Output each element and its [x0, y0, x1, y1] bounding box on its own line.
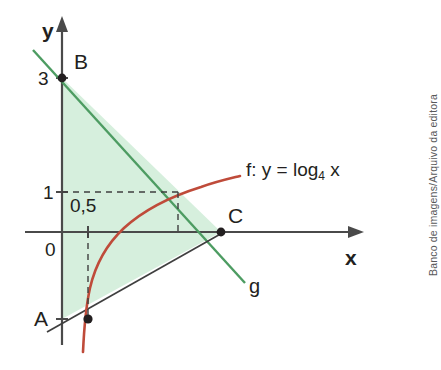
y-axis-arrow: [56, 16, 68, 32]
x-axis-arrow: [348, 226, 364, 238]
origin-label: 0: [45, 240, 56, 259]
point-label-A: A: [34, 308, 48, 329]
curve-label-prefix: f: y = log: [246, 159, 318, 180]
image-credit: Banco de imagens/Arquivo da editora: [427, 94, 439, 276]
point-B-marker: [58, 74, 67, 83]
math-figure: [0, 0, 441, 370]
line-label-g: g: [249, 276, 260, 296]
curve-label-f: f: y = log4 x: [246, 160, 340, 182]
point-label-C: C: [228, 205, 243, 226]
y-axis-label: y: [42, 20, 54, 41]
point-half-marker: [83, 314, 92, 323]
point-C-marker: [217, 228, 226, 237]
x-axis-label: x: [345, 247, 357, 268]
curve-label-arg: x: [330, 159, 340, 180]
y-tick-label-3: 3: [38, 69, 49, 88]
x-tick-label-half: 0,5: [70, 196, 96, 215]
curve-label-base: 4: [318, 169, 325, 183]
y-tick-label-1: 1: [43, 183, 54, 202]
point-label-B: B: [74, 51, 88, 72]
